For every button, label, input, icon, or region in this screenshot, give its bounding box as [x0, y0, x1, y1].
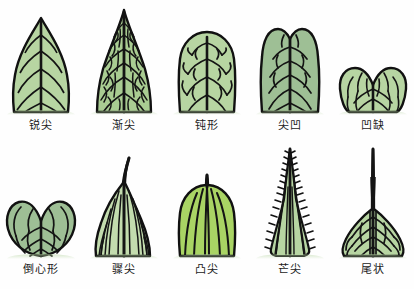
leaf-row-top: 锐尖 — [0, 0, 414, 145]
leaf-figure-emarginate: 凹缺 — [333, 0, 413, 145]
leaf-illustration-acute — [1, 0, 81, 115]
leaf-label-emarginate: 凹缺 — [333, 115, 413, 145]
leaf-illustration-obcordate — [1, 145, 81, 259]
leaf-label-acute: 锐尖 — [1, 115, 81, 145]
leaf-figure-obcordate: 倒心形 — [1, 145, 81, 289]
leaf-figure-acute: 锐尖 — [1, 0, 81, 145]
leaf-figure-obtuse: 钝形 — [167, 0, 247, 145]
leaf-illustration-acuminate — [84, 0, 164, 115]
leaf-illustration-caudate — [333, 145, 413, 259]
leaf-figure-acuminate: 渐尖 — [84, 0, 164, 145]
leaf-illustration-obtuse — [167, 0, 247, 115]
leaf-figure-cuspidate: 骤尖 — [84, 145, 164, 289]
leaf-apex-diagram: 锐尖 — [0, 0, 414, 289]
leaf-row-bottom: 倒心形 — [0, 145, 414, 289]
leaf-figure-caudate: 尾状 — [333, 145, 413, 289]
leaf-label-obcordate: 倒心形 — [1, 259, 81, 289]
leaf-illustration-retuse — [250, 0, 330, 115]
leaf-label-retuse: 尖凹 — [250, 115, 330, 145]
leaf-label-caudate: 尾状 — [333, 259, 413, 289]
leaf-figure-mucronate: 凸尖 — [167, 145, 247, 289]
leaf-illustration-mucronate — [167, 145, 247, 259]
leaf-label-aristate: 芒尖 — [250, 259, 330, 289]
leaf-label-obtuse: 钝形 — [167, 115, 247, 145]
leaf-label-mucronate: 凸尖 — [167, 259, 247, 289]
leaf-illustration-aristate — [250, 145, 330, 259]
leaf-label-acuminate: 渐尖 — [84, 115, 164, 145]
leaf-figure-aristate: 芒尖 — [250, 145, 330, 289]
leaf-label-cuspidate: 骤尖 — [84, 259, 164, 289]
leaf-illustration-emarginate — [333, 0, 413, 115]
leaf-figure-retuse: 尖凹 — [250, 0, 330, 145]
leaf-illustration-cuspidate — [84, 145, 164, 259]
